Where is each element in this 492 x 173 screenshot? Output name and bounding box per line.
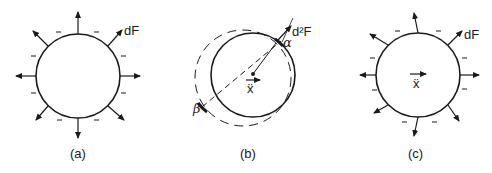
figure-canvas: dF (a) ẍ d²F α β (b) xyxy=(0,0,492,173)
acceleration-label-c: ẍ xyxy=(413,76,420,91)
body-circle-a xyxy=(36,34,120,118)
radius-line-b xyxy=(253,43,276,74)
beta-label: β xyxy=(192,101,201,116)
center-dot-b xyxy=(251,72,255,76)
caption-b: (b) xyxy=(240,146,256,161)
force-label-b: d²F xyxy=(292,24,312,39)
force-label-c: dF xyxy=(464,27,479,42)
displaced-circle-b xyxy=(195,30,291,126)
force-label-a: dF xyxy=(124,23,139,38)
body-circle-c xyxy=(376,33,460,117)
panel-a: dF (a) xyxy=(16,12,140,161)
minus-signs-a xyxy=(31,32,126,120)
panel-b: ẍ d²F α β (b) xyxy=(192,18,312,161)
caption-c: (c) xyxy=(408,146,423,161)
caption-a: (a) xyxy=(70,146,86,161)
force-arrows-a xyxy=(16,12,140,138)
alpha-label: α xyxy=(283,35,292,50)
acceleration-label-b: ẍ xyxy=(247,81,254,96)
panel-c: ẍ dF (c) xyxy=(360,13,479,161)
beta-alpha-line xyxy=(202,41,281,107)
